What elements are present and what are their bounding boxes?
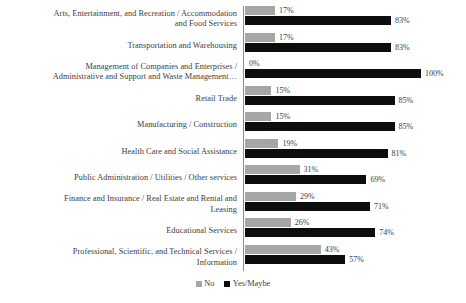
bar-no (245, 6, 275, 15)
bar-value-yes: 69% (366, 175, 385, 184)
bar-no (245, 139, 278, 148)
legend-item[interactable]: Yes/Maybe (224, 279, 270, 288)
category-label: Educational Services (0, 226, 243, 237)
category-label-line: Transportation and Warehousing (127, 41, 237, 50)
bar-yes (245, 228, 375, 237)
bar-line: 81% (245, 149, 466, 158)
bar-line: 74% (245, 228, 466, 237)
bar-value-no: 31% (300, 165, 319, 174)
category-label: Transportation and Warehousing (0, 41, 243, 52)
bar-line: 57% (245, 255, 466, 264)
bar-no (245, 86, 271, 95)
legend-item[interactable]: No (196, 279, 215, 288)
bar-no (245, 218, 291, 227)
category-label: Arts, Entertainment, and Recreation / Ac… (0, 9, 243, 30)
bar-no (245, 192, 296, 201)
category-bars: 29%71% (243, 192, 466, 219)
bar-value-yes: 71% (370, 202, 389, 211)
plot-area: Arts, Entertainment, and Recreation / Ac… (0, 6, 466, 271)
chart-category-row: Finance and Insurance / Real Estate and … (0, 192, 466, 219)
bar-value-no: 0% (245, 59, 260, 68)
bar-yes (245, 149, 388, 158)
category-label-line: Professional, Scientific, and Technical … (73, 247, 237, 256)
bar-line: 85% (245, 96, 466, 105)
chart-category-row: Educational Services26%74% (0, 218, 466, 245)
bar-line: 69% (245, 175, 466, 184)
chart-category-row: Arts, Entertainment, and Recreation / Ac… (0, 6, 466, 33)
category-label-line: Manufacturing / Construction (137, 120, 237, 129)
bar-line: 83% (245, 16, 466, 25)
chart-category-row: Retail Trade15%85% (0, 86, 466, 113)
category-label: Professional, Scientific, and Technical … (0, 247, 243, 268)
bar-value-no: 19% (278, 139, 297, 148)
category-bars: 19%81% (243, 139, 466, 166)
category-bars: 17%83% (243, 6, 466, 33)
bar-yes (245, 16, 391, 25)
category-label-line: Management of Companies and Enterprises … (85, 62, 237, 71)
bar-value-yes: 85% (395, 96, 414, 105)
bar-line: 31% (245, 165, 466, 174)
bar-value-yes: 100% (421, 69, 444, 78)
bar-value-yes: 74% (375, 228, 394, 237)
chart-category-row: Transportation and Warehousing17%83% (0, 33, 466, 60)
bar-line: 85% (245, 122, 466, 131)
legend-swatch-icon (196, 281, 202, 287)
chart-category-row: Professional, Scientific, and Technical … (0, 245, 466, 272)
bar-line: 15% (245, 86, 466, 95)
category-bars: 0%100% (243, 59, 466, 86)
category-bars: 15%85% (243, 112, 466, 139)
bar-yes (245, 69, 421, 78)
legend-label: No (204, 279, 214, 288)
category-bars: 31%69% (243, 165, 466, 192)
bar-yes (245, 202, 370, 211)
bar-line: 100% (245, 69, 466, 78)
bar-value-no: 29% (296, 192, 315, 201)
bar-yes (245, 175, 366, 184)
legend-label: Yes/Maybe (233, 279, 270, 288)
category-label: Finance and Insurance / Real Estate and … (0, 194, 243, 215)
bar-value-no: 15% (271, 112, 290, 121)
bar-line: 19% (245, 139, 466, 148)
bar-line: 0% (245, 59, 466, 68)
bar-line: 71% (245, 202, 466, 211)
legend-swatch-icon (224, 281, 230, 287)
category-label-line: Leasing (210, 205, 237, 214)
bar-yes (245, 96, 395, 105)
bar-no (245, 33, 275, 42)
bar-line: 15% (245, 112, 466, 121)
category-label-line: Information (197, 258, 237, 267)
bar-value-no: 17% (275, 6, 294, 15)
bar-value-no: 17% (275, 33, 294, 42)
bar-line: 26% (245, 218, 466, 227)
chart-category-row: Public Administration / Utilities / Othe… (0, 165, 466, 192)
chart-category-row: Health Care and Social Assistance19%81% (0, 139, 466, 166)
bar-chart: Arts, Entertainment, and Recreation / Ac… (0, 0, 466, 303)
category-bars: 15%85% (243, 86, 466, 113)
category-label-line: Arts, Entertainment, and Recreation / Ac… (54, 9, 237, 18)
bar-yes (245, 255, 345, 264)
category-bars: 43%57% (243, 245, 466, 272)
bar-value-yes: 83% (391, 43, 410, 52)
chart-category-row: Management of Companies and Enterprises … (0, 59, 466, 86)
category-label-line: Educational Services (166, 226, 237, 235)
bar-value-yes: 83% (391, 16, 410, 25)
bar-no (245, 112, 271, 121)
category-label: Public Administration / Utilities / Othe… (0, 173, 243, 184)
category-label: Health Care and Social Assistance (0, 147, 243, 158)
bar-value-yes: 57% (345, 255, 364, 264)
category-bars: 17%83% (243, 33, 466, 60)
bar-line: 43% (245, 245, 466, 254)
bar-no (245, 245, 321, 254)
category-bars: 26%74% (243, 218, 466, 245)
bar-line: 17% (245, 6, 466, 15)
category-label-line: Public Administration / Utilities / Othe… (74, 173, 237, 182)
category-label: Manufacturing / Construction (0, 120, 243, 131)
bar-yes (245, 122, 395, 131)
bar-value-no: 15% (271, 86, 290, 95)
category-label: Retail Trade (0, 94, 243, 105)
category-label-line: Health Care and Social Assistance (122, 147, 237, 156)
bar-line: 29% (245, 192, 466, 201)
bar-value-yes: 85% (395, 122, 414, 131)
chart-category-row: Manufacturing / Construction15%85% (0, 112, 466, 139)
category-label-line: Retail Trade (196, 94, 237, 103)
